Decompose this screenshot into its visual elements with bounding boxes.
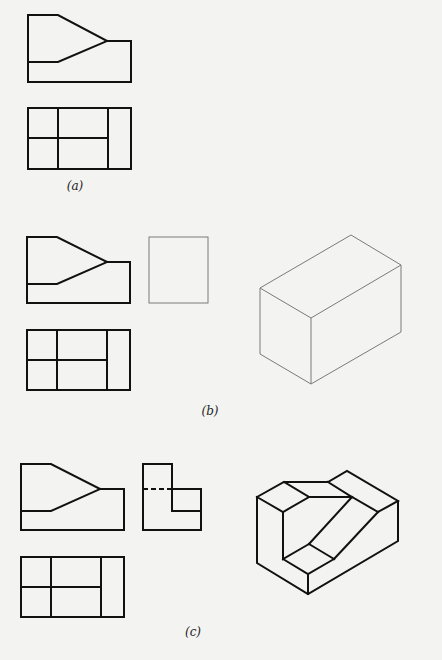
isometric-object-edge	[283, 512, 309, 559]
isometric-object-edge	[309, 497, 378, 512]
isometric-object-edge	[257, 482, 309, 512]
caption-b: (b)	[201, 404, 218, 418]
isometric-object-edge	[309, 497, 352, 544]
isometric-object-edge	[328, 482, 352, 497]
isometric-object-edge	[283, 559, 334, 574]
side-view-edge	[172, 489, 201, 511]
caption-a: (a)	[67, 179, 84, 193]
figure-a	[28, 15, 131, 169]
front-view-edge	[27, 262, 107, 284]
side-view-outline	[149, 237, 208, 303]
engineering-drawing-figure: (a) (b) (c)	[0, 0, 442, 660]
front-view-outline	[27, 237, 130, 303]
isometric-object-edge	[334, 512, 378, 559]
isometric-box-top	[260, 235, 401, 318]
front-view-outline	[21, 464, 124, 530]
orthographic-and-isometric-views	[0, 0, 442, 660]
front-view-outline	[28, 15, 131, 82]
figure-c	[21, 464, 398, 617]
figure-b	[27, 235, 401, 390]
front-view-edge	[28, 41, 107, 62]
isometric-object-edge	[309, 544, 334, 559]
isometric-box-edge	[260, 332, 401, 384]
caption-c: (c)	[185, 625, 201, 639]
front-view-edge	[21, 489, 100, 511]
